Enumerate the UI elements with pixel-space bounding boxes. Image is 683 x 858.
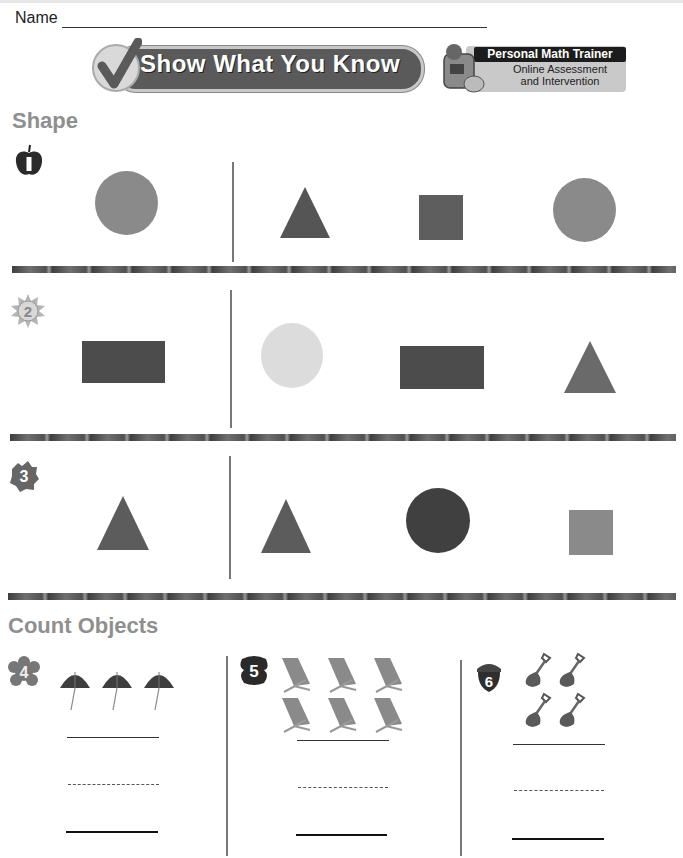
sun-icon: 2 bbox=[10, 293, 46, 329]
pmt-title: Personal Math Trainer bbox=[474, 47, 626, 62]
svg-text:4: 4 bbox=[20, 664, 29, 681]
answer-line-bottom[interactable] bbox=[512, 838, 604, 840]
choice-square[interactable] bbox=[569, 510, 613, 555]
choice-triangle[interactable] bbox=[261, 499, 311, 553]
flower-icon: 4 bbox=[8, 656, 40, 688]
choice-square[interactable] bbox=[419, 195, 463, 240]
top-rule bbox=[0, 0, 683, 3]
banner-title: Show What You Know bbox=[140, 50, 400, 78]
show-what-you-know-banner: Show What You Know bbox=[92, 42, 420, 90]
leaf-icon: 3 bbox=[8, 459, 40, 493]
answer-line-top[interactable] bbox=[297, 740, 389, 741]
model-circle bbox=[95, 171, 158, 235]
svg-text:5: 5 bbox=[249, 662, 258, 681]
svg-text:2: 2 bbox=[24, 303, 32, 320]
answer-line-bottom[interactable] bbox=[296, 834, 387, 836]
model-rectangle bbox=[82, 341, 165, 383]
acorn-icon: 6 bbox=[474, 659, 504, 693]
vertical-divider bbox=[230, 290, 232, 428]
choice-circle[interactable] bbox=[261, 323, 323, 388]
personal-math-trainer-badge[interactable]: Personal Math Trainer Online Assessment … bbox=[438, 42, 628, 94]
vertical-divider bbox=[232, 162, 234, 262]
section-divider bbox=[10, 434, 676, 441]
vertical-divider bbox=[460, 660, 462, 856]
choice-circle[interactable] bbox=[406, 488, 470, 553]
apple-icon bbox=[14, 144, 44, 178]
trainer-mascot-icon bbox=[438, 42, 488, 94]
umbrella-icon bbox=[58, 666, 188, 716]
svg-text:6: 6 bbox=[485, 673, 493, 690]
beach-chair-group bbox=[278, 654, 412, 736]
svg-text:3: 3 bbox=[20, 468, 29, 485]
shovel-group bbox=[520, 652, 592, 734]
choice-triangle[interactable] bbox=[280, 187, 330, 238]
name-label: Name bbox=[15, 9, 58, 27]
answer-line-middle bbox=[514, 790, 604, 791]
checkmark-icon bbox=[96, 38, 142, 90]
umbrella-group bbox=[58, 666, 188, 716]
choice-circle[interactable] bbox=[553, 178, 616, 242]
answer-line-bottom[interactable] bbox=[66, 831, 158, 833]
answer-line-middle bbox=[298, 787, 388, 788]
answer-line-top[interactable] bbox=[67, 737, 159, 738]
name-input-line[interactable] bbox=[62, 27, 487, 28]
choice-triangle[interactable] bbox=[564, 341, 616, 393]
answer-line-middle bbox=[68, 784, 159, 785]
model-triangle bbox=[97, 496, 149, 550]
section-title-shape: Shape bbox=[12, 108, 78, 134]
choice-rectangle[interactable] bbox=[400, 346, 484, 389]
section-divider bbox=[12, 266, 676, 273]
section-title-count-objects: Count Objects bbox=[8, 613, 158, 639]
butterfly-icon: 5 bbox=[240, 655, 268, 685]
answer-line-top[interactable] bbox=[513, 744, 605, 745]
vertical-divider bbox=[226, 656, 228, 856]
section-divider bbox=[8, 593, 676, 600]
pmt-subtitle: Online Assessment and Intervention bbox=[496, 63, 624, 87]
vertical-divider bbox=[229, 456, 231, 579]
